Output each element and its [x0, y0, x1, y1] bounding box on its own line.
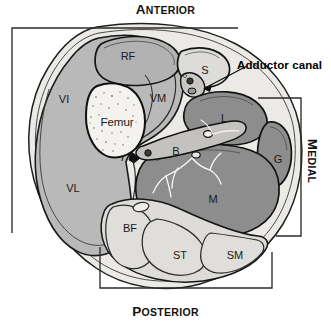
direction-label-anterior: ANTERIOR — [0, 2, 331, 17]
anterior-small-caps: NTERIOR — [146, 4, 195, 16]
structure-label-bf: BF — [123, 222, 137, 234]
popliteal-artery — [145, 150, 151, 156]
structure-label-g: G — [274, 153, 283, 165]
popliteal-vein — [204, 131, 213, 138]
figure-canvas: ANTERIOR POSTERIOR MEDIAL Adductor canal… — [0, 0, 331, 321]
structure-label-s: S — [201, 64, 208, 76]
adductor-canal-annotation: Adductor canal — [237, 59, 322, 71]
femoral-artery — [187, 78, 193, 84]
structure-label-sm: SM — [227, 249, 244, 261]
posterior-small-caps: OSTERIOR — [142, 306, 199, 318]
structure-label-vl: VL — [66, 182, 79, 194]
medial-small-caps: EDIAL — [306, 150, 318, 183]
structure-label-vi: VI — [59, 93, 69, 105]
posterior-lead-cap: P — [132, 304, 141, 319]
structure-label-femur: Femur — [100, 116, 133, 128]
medial-lead-cap: M — [305, 138, 320, 150]
femoral-vein — [188, 88, 196, 94]
saphenous-nerve — [184, 75, 187, 78]
structure-label-rf: RF — [121, 50, 136, 62]
structure-label-st: ST — [173, 249, 187, 261]
anterior-lead-cap: A — [136, 2, 146, 17]
direction-label-medial: MEDIAL — [305, 111, 320, 211]
structure-label-b: B — [172, 145, 179, 157]
direction-label-posterior: POSTERIOR — [0, 304, 331, 319]
structure-label-vm: VM — [150, 92, 167, 104]
rectus-femoris — [95, 37, 180, 86]
structure-label-l: L — [221, 112, 227, 124]
structure-label-m: M — [208, 193, 217, 205]
sciatic-nerve-trunk — [192, 152, 200, 158]
